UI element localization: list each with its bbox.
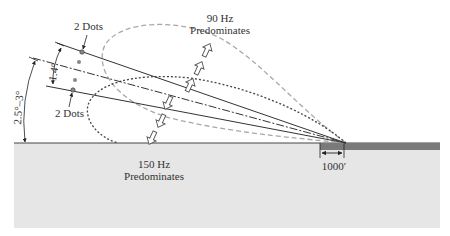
lower-dots-label: 2 Dots [55,107,84,119]
glide-path-centerline [33,58,346,143]
glide-angle-label: 2.5°–3° [11,91,25,125]
lower-dot-boundary [71,88,75,92]
lower-dot-inner [73,78,77,82]
upper-limit-line [57,43,346,143]
hz90-label-line1: 90 Hz [190,12,250,24]
lobe-90hz [102,24,346,143]
hz150-label-line2: Predominates [109,170,199,182]
distance-label: 1000′ [318,160,350,172]
hz150-label-line1: 150 Hz [124,158,184,170]
runway [320,143,440,150]
width-angle-ext-upper [55,42,64,46]
lobe-150hz [87,77,346,143]
glide-angle-dimension [24,61,35,142]
arrow-up-icon [192,60,207,77]
lower-dots-pointer [69,93,72,107]
upper-dot-inner [77,60,81,64]
upper-dots-pointer [83,35,87,49]
upper-dot-boundary [80,50,84,54]
hz90-label-line2: Predominates [175,24,265,36]
ground-area [14,143,440,228]
upper-dots-label: 2 Dots [74,20,103,32]
lower-limit-line [46,86,346,143]
arrow-up-icon [200,42,215,59]
